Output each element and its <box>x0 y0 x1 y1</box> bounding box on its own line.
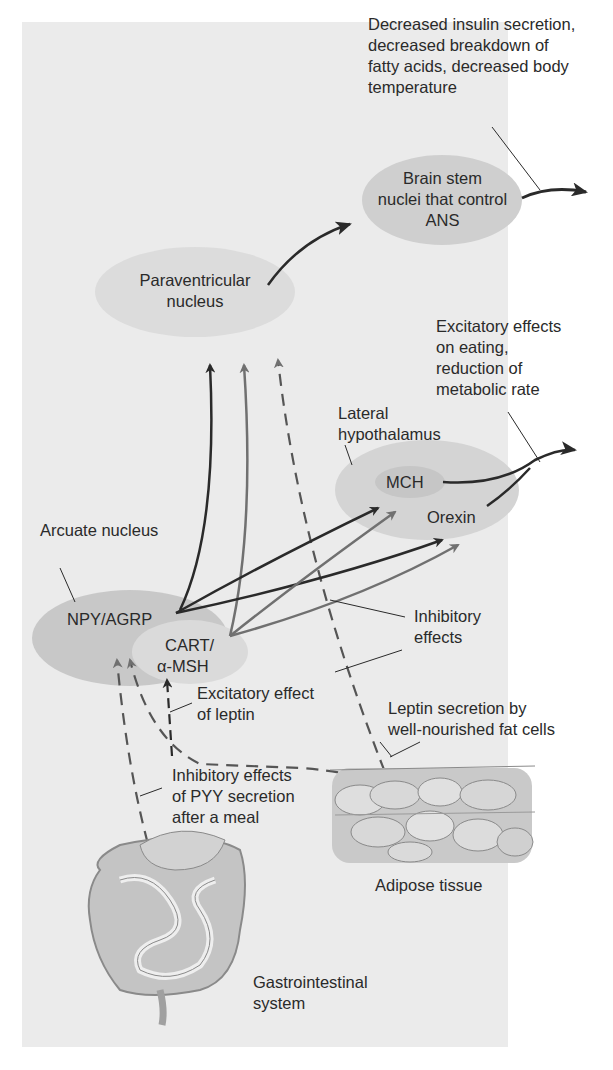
cart-alpha-msh-label: CART/ α-MSH <box>157 635 214 677</box>
leptin-to-cart-dashed-arrow <box>167 680 172 756</box>
paraventricular-node: Paraventricular nucleus <box>120 270 270 312</box>
lh-effects-annotation: Excitatory effects on eating, reduction … <box>436 316 561 400</box>
leptin-secretion-leader-1 <box>380 742 392 757</box>
brain-stem-node: Brain stem nuclei that control ANS <box>365 168 520 231</box>
adipose-tissue-illustration <box>330 766 535 863</box>
cart-to-mch-arrow <box>230 512 395 636</box>
excitatory-leptin-label: Excitatory effect of leptin <box>197 683 314 725</box>
lateral-hypothalamus-label: Lateral hypothalamus <box>338 403 441 445</box>
inhibitory-leader-1 <box>330 600 405 617</box>
leptin-secretion-label: Leptin secretion by well-nourished fat c… <box>388 698 555 740</box>
gastrointestinal-label: Gastrointestinal system <box>253 972 368 1014</box>
leptin-secretion-leader-2 <box>390 742 420 757</box>
arcuate-nucleus-label: Arcuate nucleus <box>40 520 158 541</box>
npy-to-orexin-arrow <box>176 540 442 613</box>
leptin-excitatory-leader <box>170 703 192 712</box>
cart-to-pvn-arrow <box>230 365 247 636</box>
ans-effects-annotation: Decreased insulin secretion, decreased b… <box>368 14 575 98</box>
lh-label-leader <box>345 445 352 465</box>
arcuate-label-leader <box>60 568 75 602</box>
inhibitory-leader-2 <box>335 650 402 672</box>
gastrointestinal-illustration <box>89 831 245 1025</box>
orexin-label: Orexin <box>427 507 476 528</box>
npy-to-pvn-arrow <box>180 365 211 610</box>
pyy-leader <box>140 788 162 796</box>
lh-effects-leader <box>508 412 540 462</box>
brainstem-output-arrow <box>522 190 586 198</box>
adipose-tissue-label: Adipose tissue <box>375 875 482 896</box>
inhibitory-effects-label: Inhibitory effects <box>414 606 481 648</box>
mch-label: MCH <box>386 472 424 493</box>
pyy-effects-label: Inhibitory effects of PYY secretion afte… <box>172 765 295 828</box>
npy-agrp-label: NPY/AGRP <box>67 609 152 630</box>
